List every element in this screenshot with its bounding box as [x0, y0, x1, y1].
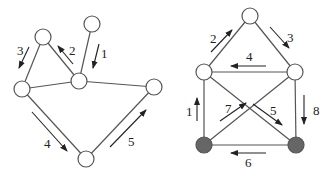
node	[84, 16, 100, 32]
flow-arrow-icon	[220, 103, 246, 121]
edge-f-e	[86, 87, 154, 159]
arrow-label: 1	[186, 104, 193, 119]
node	[14, 81, 30, 97]
node	[78, 151, 94, 167]
edge-a-c	[79, 24, 92, 81]
arrow-label: 6	[245, 155, 252, 170]
filled-node	[288, 137, 304, 153]
filled-node	[196, 137, 212, 153]
arrow-label: 2	[69, 43, 76, 58]
edge-mr-br	[295, 72, 296, 145]
arrow-label: 8	[313, 103, 320, 118]
left-graph: 12345	[14, 16, 162, 167]
arrow-label: 4	[246, 49, 253, 64]
arrow-label: 2	[210, 31, 217, 46]
edge-d-c	[22, 81, 79, 89]
node	[242, 8, 258, 24]
flow-arrow-icon	[93, 44, 99, 68]
arrow-label: 7	[225, 101, 232, 116]
node	[146, 79, 162, 95]
arrow-label: 4	[44, 136, 51, 151]
node	[196, 64, 212, 80]
node	[287, 64, 303, 80]
edge-d-f	[22, 89, 86, 159]
edge-c-e	[79, 81, 154, 87]
node	[71, 73, 87, 89]
arrow-label: 3	[17, 43, 24, 58]
diagram-canvas: 12345 12345678	[0, 0, 331, 177]
arrow-label: 5	[128, 134, 135, 149]
node	[35, 29, 51, 45]
arrow-label: 5	[270, 103, 277, 118]
right-graph: 12345678	[186, 8, 320, 170]
arrow-label: 3	[287, 30, 294, 45]
arrow-label: 1	[101, 46, 108, 61]
